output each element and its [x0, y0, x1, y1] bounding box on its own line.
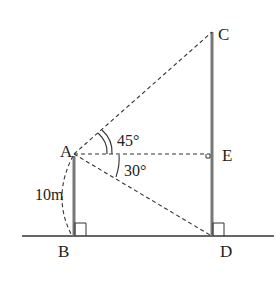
- angle-45-arc-1: [98, 133, 107, 154]
- point-label-b: B: [58, 242, 69, 261]
- angle-label-30: 30°: [124, 162, 146, 179]
- right-angle-e: [206, 154, 210, 158]
- length-label-ab: 10m: [35, 186, 64, 203]
- angle-label-45: 45°: [117, 132, 139, 149]
- point-label-d: D: [220, 242, 232, 261]
- point-label-a: A: [60, 142, 73, 161]
- right-angle-d: [213, 223, 224, 236]
- right-angle-b: [75, 223, 86, 236]
- length-arc-ab: [62, 156, 73, 234]
- angle-30-arc: [116, 155, 119, 177]
- point-label-e: E: [222, 146, 232, 165]
- geometry-diagram: A B C D E 45° 30° 10m: [0, 0, 276, 281]
- line-ac: [74, 32, 212, 154]
- point-label-c: C: [218, 25, 229, 44]
